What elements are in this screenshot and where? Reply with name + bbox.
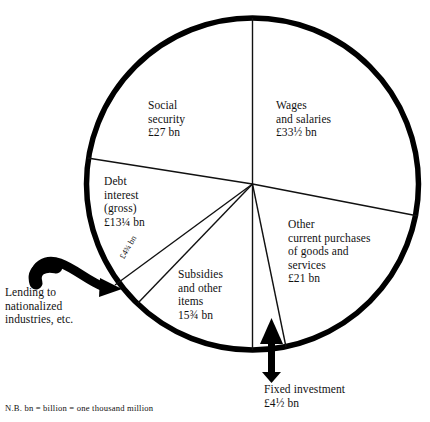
slice-label-fixed-investment: Fixed investment £4½ bn bbox=[264, 383, 345, 410]
pie-chart-figure: Wages and salaries £33½ bn Social securi… bbox=[0, 0, 430, 422]
slice-label-subsidies-and-other-items: Subsidies and other items 15¾ bn bbox=[178, 268, 223, 322]
slice-label-wages-and-salaries: Wages and salaries £33½ bn bbox=[276, 99, 331, 140]
chart-footnote: N.B. bn = billion = one thousand million bbox=[5, 403, 153, 413]
slice-label-lending-to-nationalized-industries: Lending to nationalized industries, etc. bbox=[5, 286, 73, 327]
slice-label-social-security: Social security £27 bn bbox=[148, 99, 185, 140]
pie-chart-graphic bbox=[0, 0, 430, 422]
slice-label-debt-interest: Debt interest (gross) £13¼ bn bbox=[104, 175, 145, 229]
slice-label-other-current-purchases: Other current purchases of goods and ser… bbox=[288, 218, 370, 286]
